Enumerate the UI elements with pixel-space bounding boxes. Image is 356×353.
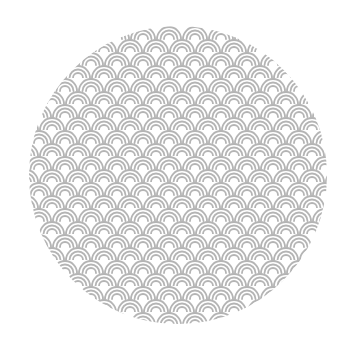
wave-pattern-circle	[0, 0, 356, 353]
